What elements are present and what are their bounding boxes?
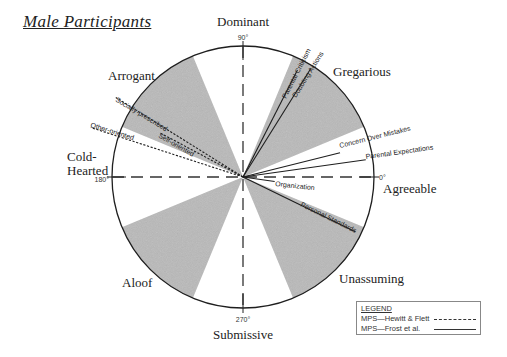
vector-label-organization: Organization <box>275 180 315 192</box>
octant-label-arrogant: Arrogant <box>108 68 155 83</box>
octant-label-submissive: Submissive <box>213 327 273 342</box>
octant-label-aloof: Aloof <box>122 275 153 290</box>
octant-label-cold-hearted-1: Cold- <box>67 149 97 164</box>
degree-90-label: 90° <box>238 34 249 41</box>
degree-0-label: 0° <box>379 174 386 181</box>
chart-title: Male Participants <box>23 12 151 32</box>
octant-label-gregarious: Gregarious <box>333 64 391 79</box>
legend-row-hewitt-flett: MPS—Hewitt & Flett <box>361 314 476 324</box>
legend-row-frost: MPS—Frost et al. <box>361 324 476 334</box>
circumplex-diagram: Parental CriticismDoubting ActionsConcer… <box>0 0 507 357</box>
octant-label-dominant: Dominant <box>217 14 269 29</box>
legend-label-frost: MPS—Frost et al. <box>361 324 420 334</box>
vector-label-parental-expectations: Parental Expectations <box>365 144 434 161</box>
legend: LEGEND MPS—Hewitt & Flett MPS—Frost et a… <box>356 301 481 335</box>
octant-label-agreeable: Agreeable <box>383 181 437 196</box>
solid-line-swatch <box>434 329 476 330</box>
octant-label-cold-hearted-2: Hearted <box>67 163 109 178</box>
degree-270-label: 270° <box>236 316 251 323</box>
legend-title: LEGEND <box>361 304 476 314</box>
legend-label-hewitt-flett: MPS—Hewitt & Flett <box>361 314 429 324</box>
octant-label-unassuming: Unassuming <box>339 271 405 286</box>
dashed-line-swatch <box>434 319 476 320</box>
